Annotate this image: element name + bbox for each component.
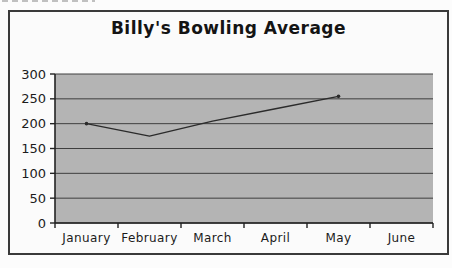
x-label-may: May <box>325 231 351 245</box>
x-label-april: April <box>261 231 290 245</box>
y-tick-label-200: 200 <box>21 116 46 131</box>
x-label-march: March <box>193 231 232 245</box>
y-tick-label-100: 100 <box>21 166 46 181</box>
y-tick-label-0: 0 <box>38 216 46 231</box>
series-endpoint-end <box>337 95 341 99</box>
scanned-worksheet-page: Billy's Bowling Average 0501001502002503… <box>0 0 452 268</box>
line-chart: 050100150200250300JanuaryFebruaryMarchAp… <box>0 0 452 268</box>
x-label-february: February <box>121 231 177 245</box>
series-endpoint-start <box>85 122 89 126</box>
x-label-june: June <box>387 231 416 245</box>
y-tick-label-50: 50 <box>29 191 46 206</box>
x-label-january: January <box>61 231 110 245</box>
y-tick-label-250: 250 <box>21 91 46 106</box>
y-tick-label-150: 150 <box>21 141 46 156</box>
y-tick-label-300: 300 <box>21 67 46 82</box>
